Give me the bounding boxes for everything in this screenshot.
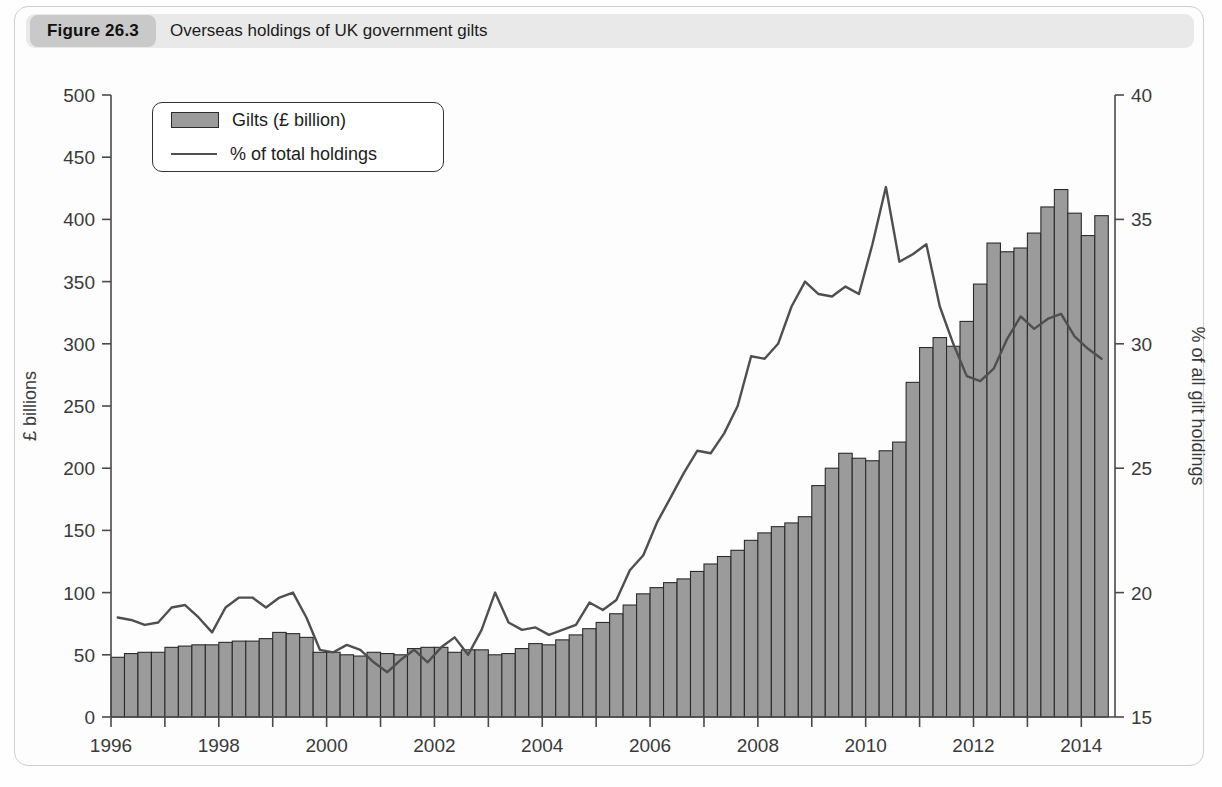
- bar: [893, 442, 906, 717]
- bar: [1027, 233, 1040, 717]
- bar: [610, 614, 623, 717]
- bar: [340, 655, 353, 717]
- bar: [717, 557, 730, 717]
- x-tick-label: 2002: [413, 735, 455, 756]
- bar: [502, 654, 515, 717]
- bar: [165, 647, 178, 717]
- bar: [475, 650, 488, 717]
- x-tick-label: 2014: [1060, 735, 1103, 756]
- bar: [785, 523, 798, 717]
- bar: [798, 517, 811, 717]
- y-tick-label: 100: [63, 583, 95, 604]
- y-tick-label: 350: [63, 272, 95, 293]
- bar: [1095, 216, 1108, 717]
- bar: [920, 348, 933, 717]
- x-tick-label: 2012: [952, 735, 994, 756]
- x-tick-label: 1996: [90, 735, 132, 756]
- y-tick-label: 200: [63, 458, 95, 479]
- x-tick-label: 1998: [198, 735, 240, 756]
- x-tick-label: 2010: [845, 735, 887, 756]
- bar: [300, 637, 313, 717]
- bar: [947, 346, 960, 717]
- bar: [623, 605, 636, 717]
- bar: [690, 571, 703, 717]
- bar: [664, 583, 677, 717]
- chart-legend: Gilts (£ billion) % of total holdings: [152, 102, 444, 172]
- y2-tick-label: 40: [1131, 85, 1152, 106]
- x-tick-label: 2004: [521, 735, 564, 756]
- bar: [650, 588, 663, 717]
- bar: [1041, 207, 1054, 717]
- bar: [569, 635, 582, 717]
- y2-tick-label: 25: [1131, 458, 1152, 479]
- bar: [354, 656, 367, 717]
- bar-series: [111, 190, 1108, 717]
- bar: [731, 550, 744, 717]
- bar: [273, 632, 286, 717]
- bar: [138, 652, 151, 717]
- bar: [286, 634, 299, 717]
- bar: [839, 453, 852, 717]
- bar: [852, 458, 865, 717]
- y-tick-label: 500: [63, 85, 95, 106]
- legend-line-swatch-icon: [171, 153, 217, 155]
- y2-tick-label: 30: [1131, 334, 1152, 355]
- bar: [879, 451, 892, 717]
- y2-tick-label: 35: [1131, 209, 1152, 230]
- bar: [825, 468, 838, 717]
- bar: [744, 540, 757, 717]
- x-tick-label: 2008: [737, 735, 779, 756]
- bar: [1054, 190, 1067, 717]
- bar: [151, 652, 164, 717]
- bar: [1000, 252, 1013, 717]
- bar: [1081, 236, 1094, 717]
- legend-bar-swatch-icon: [171, 112, 219, 128]
- bar: [313, 652, 326, 717]
- bar: [812, 486, 825, 717]
- bar: [542, 645, 555, 717]
- bar: [974, 284, 987, 717]
- bar: [771, 527, 784, 717]
- bar: [111, 657, 124, 717]
- bar: [960, 321, 973, 717]
- y-tick-label: 300: [63, 334, 95, 355]
- legend-item-percent: % of total holdings: [153, 137, 443, 171]
- bar: [488, 655, 501, 717]
- bar: [583, 629, 596, 717]
- bar: [407, 649, 420, 717]
- y-tick-label: 400: [63, 209, 95, 230]
- bar: [192, 645, 205, 717]
- bar: [327, 652, 340, 717]
- bar: [529, 644, 542, 717]
- y2-axis-title: % of all gilt holdings: [1188, 326, 1208, 485]
- bar: [758, 533, 771, 717]
- bar: [246, 641, 259, 717]
- bar: [933, 338, 946, 717]
- legend-label-gilts: Gilts (£ billion): [232, 110, 346, 131]
- legend-item-gilts: Gilts (£ billion): [153, 103, 443, 137]
- bar: [677, 579, 690, 717]
- bar: [178, 646, 191, 717]
- bar: [448, 652, 461, 717]
- bar: [596, 622, 609, 717]
- bar: [637, 594, 650, 717]
- bar: [259, 639, 272, 717]
- bar: [515, 649, 528, 717]
- bar: [987, 243, 1000, 717]
- x-tick-label: 2000: [305, 735, 347, 756]
- bar: [1068, 213, 1081, 717]
- y2-tick-label: 20: [1131, 583, 1152, 604]
- figure-container: Figure 26.3 Overseas holdings of UK gove…: [0, 0, 1222, 787]
- y-tick-label: 50: [74, 645, 95, 666]
- y-tick-label: 450: [63, 147, 95, 168]
- legend-label-percent: % of total holdings: [230, 144, 377, 165]
- bar: [219, 642, 232, 717]
- bar: [124, 654, 137, 717]
- y-tick-label: 0: [84, 707, 95, 728]
- y-axis-title: £ billions: [20, 371, 40, 441]
- x-tick-label: 2006: [629, 735, 671, 756]
- bar: [205, 645, 218, 717]
- bar: [434, 647, 447, 717]
- bar: [866, 461, 879, 717]
- bar: [906, 382, 919, 717]
